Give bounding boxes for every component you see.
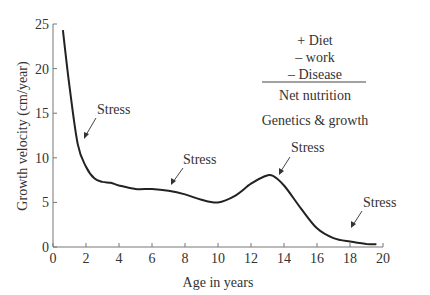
x-tick-label: 16 [310,251,324,266]
stress-arrow-3 [281,157,290,171]
diet-label: + Diet [297,33,333,48]
x-tick-label: 10 [211,251,225,266]
disease-label: – Disease [287,67,342,82]
genetics-label: Genetics & growth [262,113,369,128]
x-tick-label: 12 [244,251,258,266]
x-axis-label: Age in years [183,275,254,290]
y-tick-label: 10 [35,151,49,166]
y-tick-label: 5 [42,195,49,210]
stress-annotation-2: Stress [183,152,216,167]
x-tick-label: 6 [149,251,156,266]
stress-annotation-4: Stress [363,195,396,210]
x-tick-label: 2 [83,251,90,266]
x-tick-label: 8 [182,251,189,266]
y-tick-label: 0 [42,240,49,255]
stress-annotation-1: Stress [97,102,130,117]
arrowhead-icon [84,132,89,139]
x-tick-label: 4 [116,251,123,266]
stress-arrow-1 [86,118,96,135]
y-tick-label: 25 [35,17,49,32]
x-tick-label: 14 [277,251,291,266]
y-tick-label: 15 [35,106,49,121]
work-label: – work [294,50,334,65]
x-tick-label: 18 [343,251,357,266]
stress-arrow-2 [173,168,183,182]
y-axis-label: Growth velocity (cm/year) [15,61,31,211]
y-tick-label: 20 [35,62,49,77]
ticks: 024681012141618200510152025 [35,17,390,266]
x-tick-label: 0 [50,251,57,266]
net-nutrition-label: Net nutrition [279,88,351,103]
growth-velocity-chart: 024681012141618200510152025 Growth veloc… [0,0,430,295]
stress-annotation-3: Stress [291,140,324,155]
stress-arrow-4 [353,211,362,225]
arrowhead-icon [279,168,284,175]
x-tick-label: 20 [376,251,390,266]
